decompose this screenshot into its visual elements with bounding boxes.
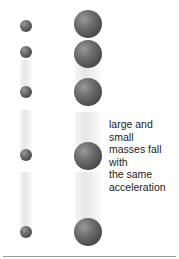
large-mass-ball (74, 78, 102, 106)
small-mass-ball (20, 86, 32, 98)
caption-line: large and small (109, 118, 179, 143)
caption: large and small masses fall with the sam… (109, 118, 179, 193)
small-mass-ball (20, 46, 32, 58)
baseline-divider (3, 256, 176, 257)
caption-line: masses fall with (109, 143, 179, 168)
caption-line: the same (109, 168, 179, 181)
large-mass-ball (74, 10, 102, 38)
large-mass-ball (74, 142, 102, 170)
large-mass-ball (74, 218, 102, 246)
small-mass-ball (20, 226, 32, 238)
small-mass-trail-3 (20, 172, 32, 232)
caption-line: acceleration (109, 181, 179, 194)
small-mass-ball (20, 20, 32, 32)
small-mass-ball (20, 149, 32, 161)
large-mass-ball (74, 40, 102, 68)
